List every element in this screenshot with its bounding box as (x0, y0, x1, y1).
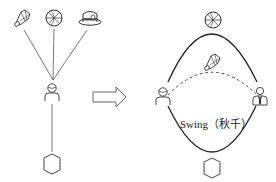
swing-label: Swing（秋千） (180, 115, 252, 131)
businessman-icon (253, 87, 267, 105)
left-panel (14, 10, 101, 174)
dashed-arc (168, 72, 256, 95)
connector-line (53, 30, 87, 80)
basketball-icon (46, 10, 62, 26)
connector-line (53, 29, 54, 80)
right-panel (156, 12, 267, 178)
hat-icon (79, 12, 101, 26)
shuttlecock-icon (204, 54, 220, 71)
connector-line (24, 30, 53, 80)
diagram-canvas (0, 0, 276, 182)
basketball-icon (205, 12, 221, 28)
books-icon (44, 154, 60, 174)
shuttlecock-icon (14, 10, 30, 27)
right-arrow-icon (93, 87, 126, 107)
books-icon (204, 158, 220, 178)
person-icon (156, 88, 170, 105)
person-icon (45, 84, 59, 101)
